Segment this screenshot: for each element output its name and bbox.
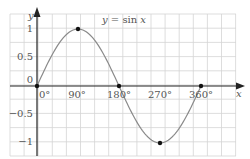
data-point <box>199 84 203 88</box>
x-tick-180: 180° <box>107 89 131 100</box>
data-point <box>76 27 80 31</box>
y-axis-label: y <box>27 10 34 21</box>
x-tick-0: 0° <box>39 89 50 100</box>
y-tick-1: 1 <box>27 23 33 34</box>
y-tick-minus-0.5: −0.5 <box>9 108 33 119</box>
y-axis-arrow-icon <box>34 7 41 17</box>
y-tick-0.5: 0.5 <box>17 51 33 62</box>
x-tick-360: 360° <box>189 89 213 100</box>
data-point <box>158 141 162 145</box>
axes <box>10 7 245 156</box>
y-tick-0: 0 <box>27 74 33 85</box>
y-tick-minus-1: −1 <box>18 136 33 147</box>
x-axis-label: x <box>236 88 242 99</box>
chart-title: y = sin x <box>101 14 146 25</box>
x-tick-270: 270° <box>148 89 172 100</box>
data-point <box>117 84 121 88</box>
data-point <box>35 84 39 88</box>
x-tick-90: 90° <box>68 89 86 100</box>
sine-chart: y x y = sin x 1 0.5 0 −0.5 −1 0° 90° 180… <box>0 0 250 159</box>
